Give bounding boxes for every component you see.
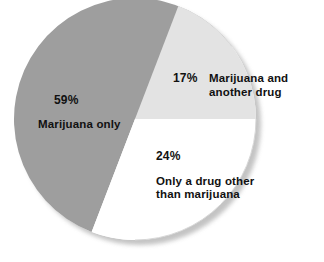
pie-chart: 59% Marijuana only 17% Marijuana and ano… [0,0,324,262]
slice-label-marijuana-only: 59% Marijuana only [38,94,121,131]
slice-description-only-other-drug: Only a drug other than marijuana [156,175,281,202]
slice-description-marijuana-only: Marijuana only [38,118,121,132]
slice-percent-marijuana-only: 59% [54,94,121,108]
slice-label-marijuana-and-another-drug: 17% Marijuana and another drug [173,72,313,99]
slice-label-only-other-drug: 24% Only a drug other than marijuana [156,150,281,202]
slice-description-marijuana-and-another-drug: Marijuana and another drug [209,72,313,99]
slice-percent-only-other-drug: 24% [156,150,281,164]
slice-percent-marijuana-and-another-drug: 17% [173,72,209,86]
pie-chart-graphic [0,0,324,262]
